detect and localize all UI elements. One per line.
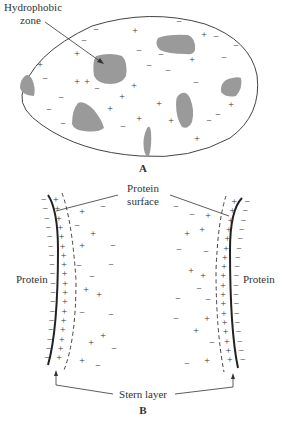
positive-charge-icon: + (74, 48, 80, 59)
positive-charge-icon: + (204, 355, 210, 366)
arrowhead-icon (54, 370, 58, 376)
negative-charge-icon: − (93, 24, 99, 35)
positive-charge-icon: + (119, 91, 125, 102)
negative-charge-icon: − (196, 283, 202, 294)
negative-charge-icon: − (79, 307, 85, 318)
positive-charge-icon: + (156, 98, 162, 109)
positive-charge-icon: + (84, 76, 90, 87)
negative-charge-icon: − (146, 60, 152, 71)
positive-charge-icon: + (131, 80, 137, 91)
positive-charge-icon: + (199, 224, 205, 235)
positive-charge-icon: + (74, 76, 80, 87)
negative-charge-icon: − (158, 49, 164, 60)
negative-charge-icon: − (108, 309, 114, 320)
negative-charge-icon: − (189, 209, 195, 220)
negative-charge-icon: − (60, 118, 66, 129)
negative-charge-icon: − (173, 201, 179, 212)
negative-charge-icon: − (136, 45, 142, 56)
negative-charge-icon: − (46, 104, 52, 115)
positive-charge-icon: + (79, 240, 85, 251)
negative-charge-icon: − (81, 35, 87, 46)
left-protein-label: Protein (16, 273, 48, 285)
negative-charge-icon: − (76, 260, 82, 271)
double-layer-diagram: +++++++++++++++−−−−−−−−−−−−−−−−−−− Hydro… (0, 0, 283, 422)
hydrophobic-zone (176, 93, 193, 128)
surface-pointer-right (170, 195, 229, 216)
right-protein-label: Protein (243, 273, 275, 285)
negative-charge-icon: − (175, 293, 181, 304)
positive-charge-icon: + (79, 206, 85, 217)
positive-charge-icon: + (88, 337, 94, 348)
positive-charge-icon: + (200, 270, 206, 281)
negative-charge-icon: − (221, 52, 227, 63)
diffuse-layer-charges: +−−++−−−−++−−++−+−−−+++−−++−−−−++−−+ (74, 201, 215, 371)
negative-charge-icon: − (206, 115, 212, 126)
hydrophobic-zone (143, 127, 151, 157)
positive-charge-icon: + (83, 284, 89, 295)
negative-charge-icon: − (108, 259, 114, 270)
positive-charge-icon: + (193, 325, 199, 336)
negative-charge-icon: − (209, 337, 215, 348)
negative-charge-icon: − (42, 73, 48, 84)
negative-charge-icon: − (58, 92, 64, 103)
positive-charge-icon: + (90, 228, 96, 239)
negative-charge-icon: − (233, 40, 239, 51)
panel-b-label: B (139, 404, 147, 416)
hydrophobic-zone (221, 77, 242, 96)
stern-pointer-left (56, 375, 113, 394)
arrowhead-icon (231, 373, 235, 379)
hydrophobic-zone (72, 102, 104, 131)
positive-charge-icon: + (37, 59, 43, 70)
stern-pointer-right (175, 378, 233, 394)
panel-b-double-layer: −+−+−+−+−+−+−+−+−+−+−+−+−+−+−+−+−+−+−+−+… (16, 182, 275, 416)
positive-charge-icon: + (228, 99, 234, 110)
negative-charge-icon: − (165, 65, 171, 76)
negative-charge-icon: − (203, 246, 209, 257)
positive-charge-icon: + (201, 29, 207, 40)
positive-charge-icon: + (132, 25, 138, 36)
negative-charge-icon: − (213, 31, 219, 42)
negative-charge-icon: − (100, 201, 106, 212)
positive-charge-icon: + (194, 133, 200, 144)
stern-layer-label: Stern layer (119, 388, 167, 400)
negative-charge-icon: − (184, 358, 190, 369)
negative-charge-icon: − (176, 244, 182, 255)
surface-charges-a: +++++++++++++++−−−−−−−−−−−−−−−−−−− (37, 16, 239, 144)
positive-charge-icon: + (100, 330, 106, 341)
negative-charge-icon: − (120, 121, 126, 132)
positive-charge-icon: + (96, 289, 102, 300)
negative-charge-icon: − (111, 343, 117, 354)
positive-charge-icon: + (204, 313, 210, 324)
protein-surface-label-line2: surface (127, 195, 159, 207)
positive-charge-icon: + (107, 103, 113, 114)
positive-charge-icon: + (79, 355, 85, 366)
positive-charge-icon: + (205, 210, 211, 221)
positive-charge-icon: + (184, 228, 190, 239)
negative-charge-icon: − (176, 16, 182, 27)
positive-charge-icon: + (188, 265, 194, 276)
hydrophobic-label-line1: Hydrophobic (4, 1, 62, 13)
positive-charge-icon: + (136, 113, 142, 124)
negative-charge-icon: − (240, 354, 246, 365)
negative-charge-icon: − (215, 109, 221, 120)
negative-charge-icon: − (193, 77, 199, 88)
negative-charge-icon: − (110, 240, 116, 251)
negative-charge-icon: − (44, 352, 50, 363)
hydrophobic-zone (93, 54, 126, 84)
protein-surface-label-line1: Protein (127, 182, 159, 194)
negative-charge-icon: − (74, 220, 80, 231)
hydrophobic-label-line2: zone (20, 14, 41, 26)
positive-charge-icon: + (56, 352, 62, 363)
positive-charge-icon: + (168, 115, 174, 126)
positive-charge-icon: + (227, 354, 233, 365)
negative-charge-icon: − (95, 360, 101, 371)
panel-a-protein-particle: +++++++++++++++−−−−−−−−−−−−−−−−−−− Hydro… (4, 1, 258, 174)
negative-charge-icon: − (89, 271, 95, 282)
negative-charge-icon: − (94, 83, 100, 94)
positive-charge-icon: + (189, 54, 195, 65)
panel-a-label: A (139, 162, 147, 174)
negative-charge-icon: − (173, 313, 179, 324)
hydrophobic-zones (20, 35, 241, 157)
negative-charge-icon: − (205, 294, 211, 305)
